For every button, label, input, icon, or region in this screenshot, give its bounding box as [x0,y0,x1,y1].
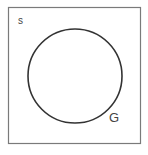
venn-diagram: s G [0,0,148,155]
universal-set-label: s [18,16,23,26]
set-g-label: G [109,111,119,124]
